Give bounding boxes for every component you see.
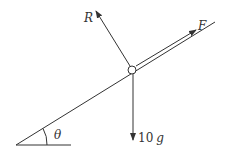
- normal-reaction-arrow: [96, 11, 130, 66]
- angle-label: θ: [54, 128, 62, 142]
- normal-reaction-label: R: [83, 11, 93, 25]
- particle: [128, 66, 136, 74]
- angle-arc: [43, 129, 47, 146]
- incline-plane: [16, 22, 215, 145]
- weight-label: 10g: [138, 131, 164, 145]
- applied-force-arrow: [136, 30, 196, 66]
- applied-force-label: F: [197, 19, 207, 33]
- force-diagram: θ R F 10g: [0, 0, 228, 156]
